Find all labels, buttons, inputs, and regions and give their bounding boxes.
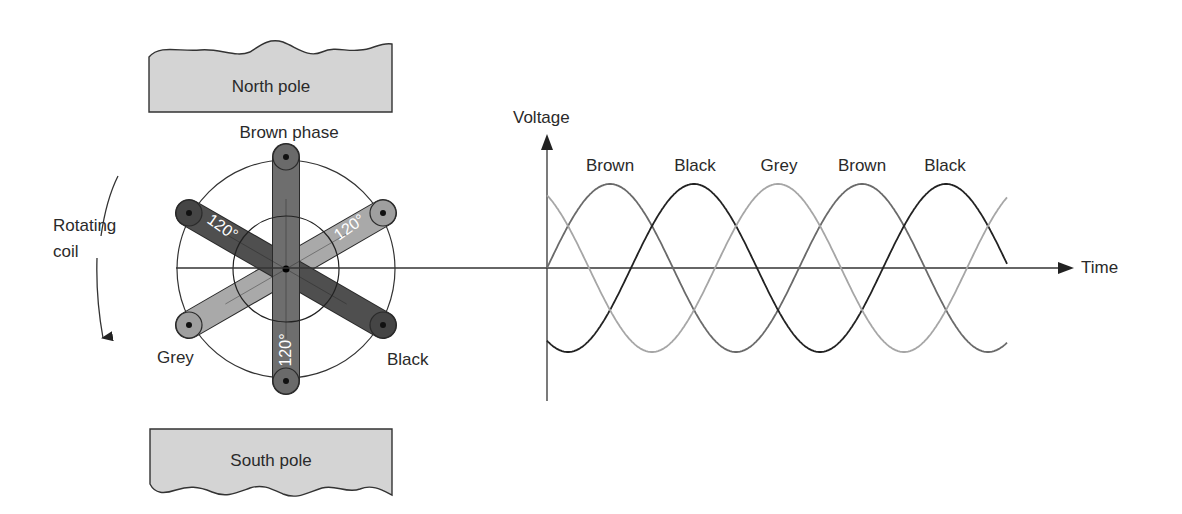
peak-label-grey: Grey <box>761 157 798 174</box>
coil-label: coil <box>53 243 79 260</box>
peak-label-black-2: Black <box>924 157 966 174</box>
peak-label-brown-1: Brown <box>586 157 634 174</box>
voltage-axis-label: Voltage <box>513 109 570 126</box>
time-axis-label: Time <box>1081 259 1118 276</box>
brown-phase-label: Brown phase <box>239 124 338 141</box>
south-pole-label: South pole <box>230 451 311 471</box>
rotor-hub-icon <box>283 266 290 273</box>
time-axis-arrow-icon <box>1058 262 1074 274</box>
rotating-label: Rotating <box>53 217 116 234</box>
grey-phase-label: Grey <box>157 349 194 366</box>
peak-label-black-1: Black <box>674 157 716 174</box>
black-phase-label: Black <box>387 351 429 368</box>
voltage-axis-arrow-icon <box>541 134 553 150</box>
peak-label-brown-2: Brown <box>838 157 886 174</box>
rotation-arrow-icon <box>97 176 118 338</box>
generator-diagram: 120°120°120° <box>0 0 1182 514</box>
north-pole-label: North pole <box>232 77 310 97</box>
angle-label: 120° <box>277 333 294 366</box>
